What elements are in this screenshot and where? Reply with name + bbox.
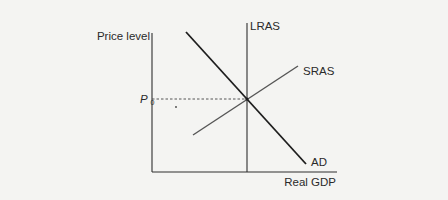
sras-label: SRAS bbox=[303, 65, 335, 77]
ad-as-diagram: Price level LRAS SRAS AD Real GDP P 0 bbox=[0, 0, 448, 200]
sras-curve bbox=[193, 66, 298, 135]
ad-label: AD bbox=[311, 156, 327, 168]
stray-dot bbox=[175, 106, 177, 108]
lras-label: LRAS bbox=[250, 20, 280, 32]
equilibrium-point bbox=[245, 97, 248, 100]
x-axis-label: Real GDP bbox=[284, 176, 336, 188]
p0-subscript: 0 bbox=[150, 99, 154, 106]
y-axis-label: Price level bbox=[97, 30, 150, 42]
p0-letter: P bbox=[140, 93, 148, 105]
